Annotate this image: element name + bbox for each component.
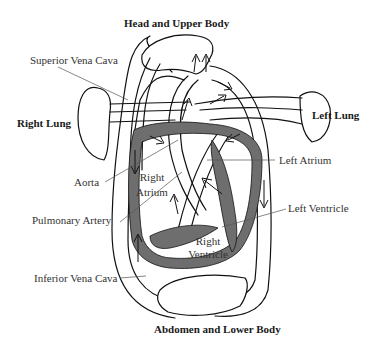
label-head-and-upper-body: Head and Upper Body [124, 18, 229, 29]
pulmonary-vessel-left-mid [200, 108, 302, 110]
label-inferior-vena-cava: Inferior Vena Cava [34, 273, 117, 284]
pulmonary-vessel-right-upper [110, 102, 190, 104]
superior-vena-cava-outline-b [142, 64, 160, 170]
pulmonary-vessel-left-lower [210, 118, 302, 124]
arrow-rv-out [170, 194, 178, 214]
label-right-ventricle-line2: Ventricle [185, 249, 231, 260]
heart-circulation-illustration [0, 0, 373, 351]
lower-body-capillary-bed [158, 275, 248, 315]
circulatory-diagram: Head and Upper Body Superior Vena Cava R… [0, 0, 373, 351]
label-pulmonary-artery: Pulmonary Artery [32, 215, 111, 226]
label-abdomen-and-lower-body: Abdomen and Lower Body [154, 324, 281, 335]
label-left-lung: Left Lung [312, 110, 359, 121]
pulmonary-vessel-right-lower [110, 120, 175, 122]
aorta-outline-a [169, 76, 198, 215]
label-left-ventricle: Left Ventricle [288, 203, 349, 214]
label-aorta: Aorta [74, 177, 99, 188]
label-right-atrium-line2: Atrium [135, 187, 169, 198]
label-right-atrium: Right Atrium [135, 172, 169, 198]
label-right-lung: Right Lung [17, 118, 71, 129]
right-lung-capillary-bed [78, 87, 111, 160]
head-capillary-bed [142, 35, 213, 74]
label-superior-vena-cava: Superior Vena Cava [30, 55, 118, 66]
label-right-ventricle-line1: Right [185, 236, 231, 247]
label-left-atrium: Left Atrium [279, 155, 331, 166]
label-right-atrium-line1: Right [135, 172, 169, 183]
leader-inferior-vena-cava [120, 276, 146, 278]
arrow-arch-right [218, 82, 232, 90]
label-right-ventricle: Right Ventricle [185, 236, 231, 260]
